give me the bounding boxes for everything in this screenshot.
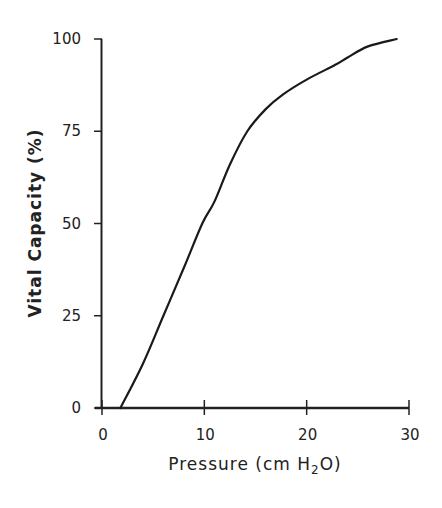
y-tick-label: 0: [71, 399, 81, 417]
y-tick-label: 75: [62, 122, 81, 140]
x-tick-label: 10: [196, 426, 215, 444]
y-tick-label: 25: [62, 307, 81, 325]
pressure-volume-chart: 0255075100 0102030 Pressure (cm H2O) Vit…: [0, 0, 442, 508]
y-tick-label: 50: [62, 215, 81, 233]
y-ticks: 0255075100: [52, 30, 102, 417]
x-tick-label: 0: [98, 426, 108, 444]
x-axis-title: Pressure (cm H2O): [168, 454, 341, 477]
axes: [95, 39, 409, 408]
x-tick-label: 20: [298, 426, 317, 444]
x-ticks: 0102030: [98, 400, 419, 444]
data-line: [120, 39, 396, 408]
y-axis-title: Vital Capacity (%): [25, 128, 45, 317]
y-tick-label: 100: [52, 30, 81, 48]
x-tick-label: 30: [400, 426, 419, 444]
